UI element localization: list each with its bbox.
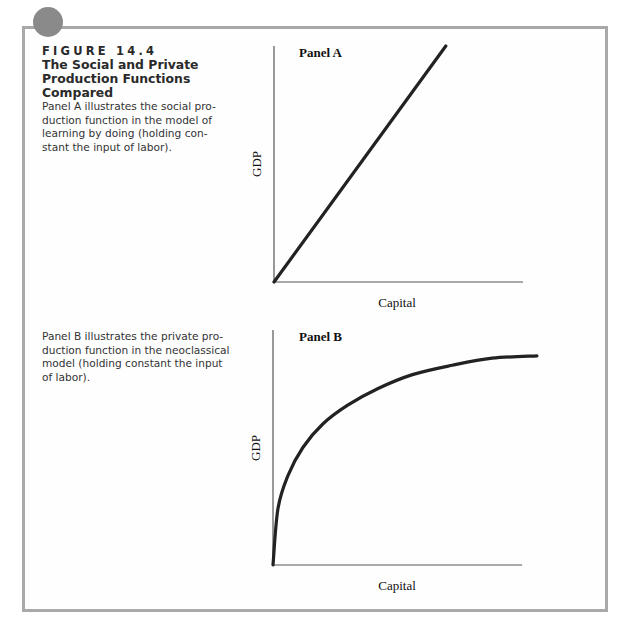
panel-a-production-line bbox=[274, 46, 446, 282]
panel-b-chart: Panel B Capital GDP bbox=[248, 329, 537, 593]
charts-canvas: Panel A Capital GDP Panel B Capital GDP bbox=[0, 0, 632, 634]
panel-b-x-label: Capital bbox=[378, 578, 416, 593]
panel-a-x-label: Capital bbox=[378, 295, 416, 310]
panel-b-title: Panel B bbox=[299, 329, 342, 344]
panel-a-chart: Panel A Capital GDP bbox=[249, 45, 523, 310]
panel-b-y-label: GDP bbox=[248, 435, 263, 461]
panel-a-y-label: GDP bbox=[249, 151, 264, 177]
panel-b-production-curve bbox=[273, 356, 537, 565]
panel-a-title: Panel A bbox=[299, 45, 343, 60]
